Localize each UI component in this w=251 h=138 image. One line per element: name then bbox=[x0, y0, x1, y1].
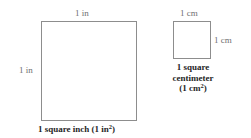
square-centimeter-caption-line-3: (1 cm2) bbox=[168, 83, 218, 94]
square-inch-caption: 1 square inch (1 in2) bbox=[38, 124, 115, 135]
square-centimeter-shape bbox=[173, 21, 211, 59]
square-inch-top-dimension-label: 1 in bbox=[75, 8, 89, 18]
square-centimeter-caption-line-2: centimeter bbox=[168, 73, 218, 84]
square-centimeter-caption-close: ) bbox=[204, 83, 207, 93]
square-inch-caption-text: 1 square inch (1 in bbox=[38, 124, 109, 134]
area-units-diagram: 1 in 1 in 1 square inch (1 in2) 1 cm 1 c… bbox=[0, 0, 251, 138]
square-centimeter-caption: 1 square centimeter (1 cm2) bbox=[168, 62, 218, 94]
square-inch-caption-close: ) bbox=[112, 124, 115, 134]
square-centimeter-caption-open: (1 cm bbox=[179, 83, 200, 93]
square-centimeter-right-dimension-label: 1 cm bbox=[214, 35, 232, 45]
square-centimeter-caption-line-1: 1 square bbox=[168, 62, 218, 73]
square-inch-left-dimension-label: 1 in bbox=[19, 65, 33, 75]
square-inch-shape bbox=[41, 21, 137, 121]
square-centimeter-top-dimension-label: 1 cm bbox=[180, 8, 198, 18]
